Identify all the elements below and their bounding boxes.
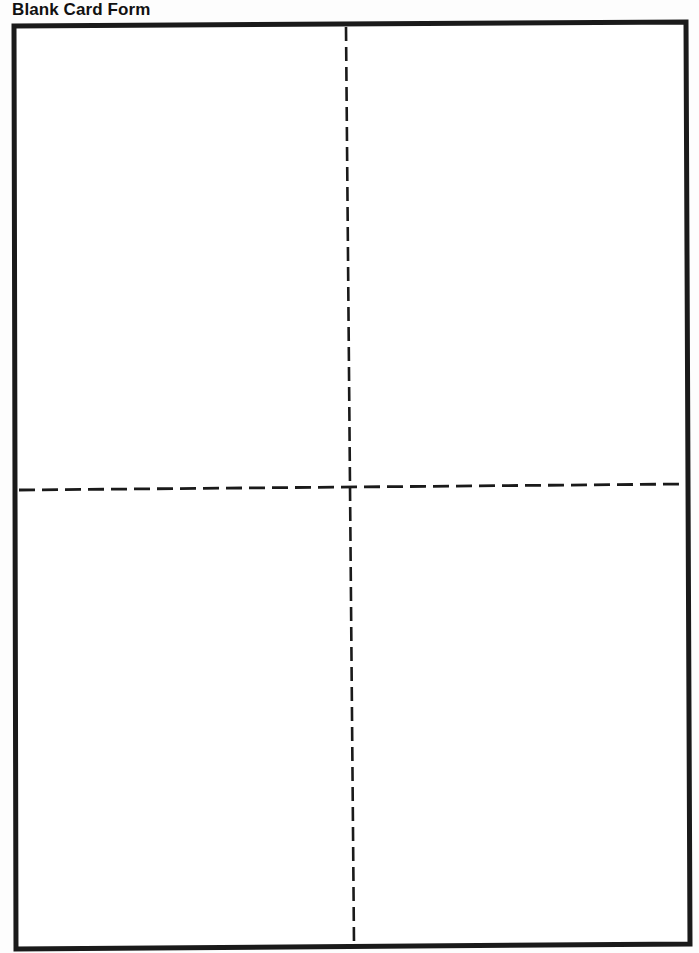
panel-bottom-left [18, 494, 348, 944]
panel-bottom-right [356, 490, 686, 942]
panel-top-right [352, 30, 682, 480]
panel-top-left [18, 30, 344, 485]
